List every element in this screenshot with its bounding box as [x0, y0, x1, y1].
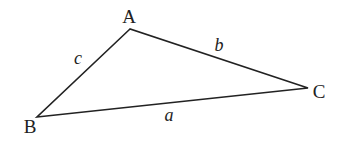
vertex-label-a: A [122, 6, 136, 27]
triangle-abc [37, 29, 308, 117]
side-label-b: b [215, 35, 224, 55]
side-label-a: a [165, 105, 174, 125]
triangle-diagram: A B C a b c [0, 0, 340, 148]
vertex-label-b: B [24, 116, 37, 137]
side-label-c: c [74, 48, 82, 68]
vertex-label-c: C [313, 81, 326, 102]
